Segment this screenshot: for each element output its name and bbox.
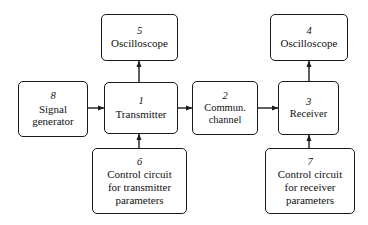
- node-transmitter-1[interactable]: 1Transmitter: [104, 82, 178, 134]
- node-label: Oscilloscope: [281, 37, 338, 50]
- node-control-circuit-receiver-7[interactable]: 7Control circuit for receiver parameters: [265, 148, 355, 214]
- node-number: 5: [137, 25, 142, 37]
- node-number: 2: [222, 90, 227, 102]
- node-label: Commun. channel: [204, 102, 246, 126]
- node-oscilloscope-5[interactable]: 5Oscilloscope: [101, 14, 178, 61]
- node-signal-generator-8[interactable]: 8Signal generator: [18, 81, 88, 137]
- node-number: 1: [138, 95, 143, 107]
- block-diagram: 5Oscilloscope4Oscilloscope8Signal genera…: [0, 0, 368, 225]
- node-label: Signal generator: [32, 103, 74, 129]
- node-label: Control circuit for receiver parameters: [278, 168, 342, 206]
- node-label: Receiver: [290, 108, 327, 120]
- node-number: 6: [137, 156, 142, 168]
- node-number: 4: [306, 25, 311, 37]
- node-number: 8: [50, 90, 55, 102]
- node-number: 3: [306, 96, 311, 108]
- node-label: Control circuit for transmitter paramete…: [107, 168, 171, 206]
- node-commun-channel-2[interactable]: 2Commun. channel: [192, 81, 258, 135]
- node-number: 7: [307, 156, 312, 168]
- node-control-circuit-transmitter-6[interactable]: 6Control circuit for transmitter paramet…: [92, 148, 187, 214]
- node-label: Oscilloscope: [111, 37, 168, 50]
- node-receiver-3[interactable]: 3Receiver: [278, 81, 339, 135]
- node-label: Transmitter: [116, 108, 167, 121]
- node-oscilloscope-4[interactable]: 4Oscilloscope: [270, 14, 348, 61]
